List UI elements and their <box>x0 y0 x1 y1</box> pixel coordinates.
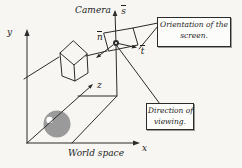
n-vector-label: n <box>97 31 103 42</box>
figure-canvas: Camera y x z s n t World space Orientati… <box>0 0 242 168</box>
x-axis-label: x <box>142 144 147 153</box>
direction-callout: Direction of viewing. <box>146 103 194 130</box>
world-space-label: World space <box>63 149 129 158</box>
z-axis-label: z <box>97 81 102 90</box>
t-vector-label: t <box>140 45 145 56</box>
orientation-callout-line1: Orientation of the <box>159 20 229 31</box>
sphere-object <box>44 111 71 138</box>
orientation-callout-line2: screen. <box>159 31 229 42</box>
orientation-callout: Orientation of the screen. <box>157 17 231 47</box>
direction-callout-line1: Direction of <box>148 106 192 117</box>
y-axis-label: y <box>7 28 12 37</box>
s-vector-label: s <box>121 5 126 16</box>
sphere-highlight <box>46 117 52 123</box>
camera-label: Camera <box>71 6 115 15</box>
direction-callout-line2: viewing. <box>148 117 192 128</box>
camera-eye-center <box>115 42 117 44</box>
